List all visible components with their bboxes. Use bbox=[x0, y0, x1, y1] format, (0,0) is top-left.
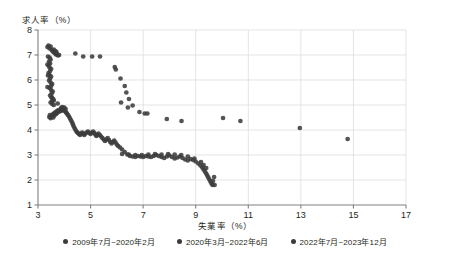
plot-area bbox=[38, 30, 406, 205]
data-point bbox=[145, 111, 150, 116]
legend-item-1[interactable]: 2009年7月~2020年2月 bbox=[63, 236, 155, 247]
legend-marker-icon bbox=[291, 239, 296, 244]
x-axis-title: 失業率（%） bbox=[0, 219, 450, 231]
data-point bbox=[212, 183, 217, 188]
data-point bbox=[139, 153, 144, 158]
data-point bbox=[345, 137, 350, 142]
data-point bbox=[45, 85, 50, 90]
legend-item-2[interactable]: 2020年3月~2022年6月 bbox=[177, 236, 269, 247]
data-point bbox=[164, 117, 169, 122]
y-tick-label: 6 bbox=[16, 76, 32, 85]
data-point bbox=[199, 160, 204, 165]
data-point bbox=[211, 179, 216, 184]
data-point bbox=[297, 126, 302, 131]
legend-marker-icon bbox=[63, 239, 68, 244]
y-tick-label: 1 bbox=[16, 201, 32, 210]
data-point bbox=[159, 152, 164, 157]
data-point bbox=[192, 156, 197, 161]
legend-marker-icon bbox=[177, 239, 182, 244]
data-point bbox=[63, 107, 68, 112]
y-tick-label: 5 bbox=[16, 101, 32, 110]
legend-item-label: 2022年7月~2023年12月 bbox=[300, 236, 387, 247]
data-point bbox=[124, 90, 129, 95]
data-point bbox=[51, 103, 56, 108]
data-point bbox=[98, 54, 103, 59]
legend-item-3[interactable]: 2022年7月~2023年12月 bbox=[291, 236, 387, 247]
data-point bbox=[185, 154, 190, 159]
data-point bbox=[179, 119, 184, 124]
series-1-points bbox=[47, 105, 215, 188]
data-point bbox=[127, 97, 132, 102]
data-point bbox=[118, 76, 123, 81]
y-tick-label: 2 bbox=[16, 176, 32, 185]
data-point bbox=[166, 152, 171, 157]
data-point bbox=[113, 67, 118, 72]
chart-legend: 2009年7月~2020年2月2020年3月~2022年6月2022年7月~20… bbox=[0, 236, 450, 247]
legend-item-label: 2020年3月~2022年6月 bbox=[186, 236, 269, 247]
data-point bbox=[130, 103, 135, 108]
data-point bbox=[153, 152, 158, 157]
data-point bbox=[137, 110, 142, 115]
data-point bbox=[119, 100, 124, 105]
plot-svg bbox=[38, 30, 406, 205]
y-axis-title: 求人率（%） bbox=[22, 13, 76, 25]
data-point bbox=[120, 152, 125, 157]
data-point bbox=[126, 105, 131, 110]
data-point bbox=[45, 62, 50, 67]
data-point bbox=[146, 152, 151, 157]
data-point bbox=[126, 152, 131, 157]
data-point bbox=[122, 84, 127, 89]
data-point bbox=[238, 119, 243, 124]
data-point bbox=[73, 51, 78, 56]
data-point bbox=[54, 50, 59, 55]
data-point bbox=[212, 175, 217, 180]
data-point bbox=[179, 153, 184, 158]
data-point bbox=[81, 54, 86, 59]
scatter-chart: 求人率（%） 12345678357911131517 失業率（%） 2009年… bbox=[0, 0, 450, 256]
legend-item-label: 2009年7月~2020年2月 bbox=[72, 236, 155, 247]
y-tick-label: 3 bbox=[16, 151, 32, 160]
data-point bbox=[90, 54, 95, 59]
data-point bbox=[221, 116, 226, 121]
series-3-points bbox=[45, 43, 61, 107]
data-point bbox=[133, 153, 138, 158]
y-tick-label: 4 bbox=[16, 126, 32, 135]
data-point bbox=[172, 152, 177, 157]
data-point bbox=[46, 54, 51, 59]
y-tick-label: 7 bbox=[16, 51, 32, 60]
data-point bbox=[46, 73, 51, 78]
y-tick-label: 8 bbox=[16, 26, 32, 35]
